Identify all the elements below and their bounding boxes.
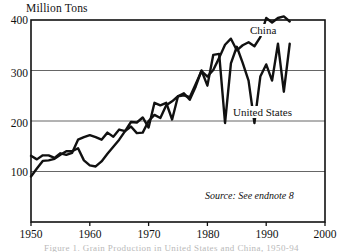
x-tick-label-2000: 2000 [305, 228, 343, 240]
x-tick-label-1970: 1970 [129, 228, 169, 240]
chart-plot-area [0, 0, 343, 252]
x-tick-label-1960: 1960 [70, 228, 110, 240]
x-tick-label-1980: 1980 [188, 228, 228, 240]
series-line-united-states [31, 44, 290, 160]
source-note: Source: See endnote 8 [205, 190, 294, 201]
x-tick-label-1950: 1950 [11, 228, 51, 240]
gridlines [31, 71, 325, 172]
figure-caption: Figure 1. Grain Production in United Sta… [0, 243, 343, 252]
y-tick-label-400: 400 [0, 14, 28, 26]
series-label-united-states: United States [232, 106, 293, 118]
x-tick-label-1990: 1990 [247, 228, 287, 240]
series-label-china: China [249, 24, 277, 36]
y-tick-label-100: 100 [0, 166, 28, 178]
chart-container: Million Tons 400 300 200 100 1950 1960 1… [0, 0, 343, 252]
data-series-group [31, 16, 290, 176]
y-tick-label-200: 200 [0, 117, 28, 129]
y-tick-label-300: 300 [0, 67, 28, 79]
